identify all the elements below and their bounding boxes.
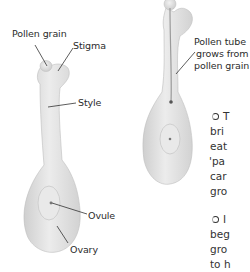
side-paragraph-1-line-4: 'pa bbox=[209, 154, 225, 169]
label-pollen-grain: Pollen grain bbox=[12, 28, 67, 40]
left-carpel bbox=[24, 45, 87, 252]
side-paragraph-2-line-4: to h bbox=[210, 257, 231, 272]
side-paragraph-2-line-3: gro bbox=[210, 242, 227, 257]
side-paragraph-1-line-5: car bbox=[210, 169, 227, 184]
label-pollen-tube-2: grows from bbox=[196, 48, 248, 60]
side-paragraph-2-line-2: beg bbox=[210, 227, 230, 242]
side-paragraph-1-line-3: eat bbox=[210, 139, 227, 154]
pollen-grain-shape bbox=[40, 61, 52, 72]
right-carpel bbox=[143, 0, 195, 184]
label-ovule: Ovule bbox=[88, 210, 115, 222]
label-ovary: Ovary bbox=[70, 244, 98, 256]
side-paragraph-1-line-6: gro bbox=[210, 184, 227, 199]
right-carpel-body bbox=[143, 8, 192, 184]
side-paragraph-1-line-1: T bbox=[212, 109, 229, 124]
bullet-icon bbox=[212, 216, 219, 223]
ovule-shape bbox=[38, 186, 60, 220]
label-stigma: Stigma bbox=[73, 40, 106, 52]
label-pollen-tube-3: pollen grain bbox=[194, 60, 249, 72]
label-pollen-tube-1: Pollen tube bbox=[194, 36, 246, 48]
bullet-icon bbox=[212, 113, 219, 120]
side-paragraph-2-line-1: I bbox=[212, 212, 226, 227]
side-paragraph-1-line-2: bri bbox=[210, 124, 224, 139]
label-style: Style bbox=[78, 97, 101, 109]
left-carpel-body bbox=[24, 64, 80, 252]
